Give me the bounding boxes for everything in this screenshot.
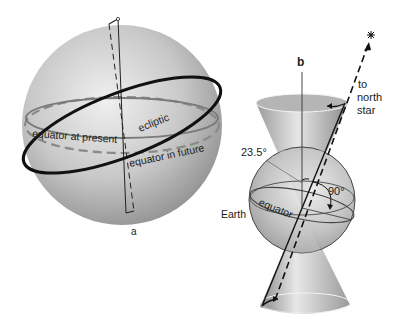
label-tilt-angle: 23.5°	[241, 146, 267, 158]
panel-label-a: a	[131, 226, 137, 237]
figure-b: b to north star 23.5° 90° Earth equator	[221, 31, 382, 314]
label-right-angle: 90°	[328, 185, 345, 197]
panel-label-b: b	[297, 55, 304, 69]
label-to: to	[358, 78, 367, 90]
label-earth: Earth	[221, 208, 246, 220]
label-north: north	[357, 91, 382, 103]
figure-a: equator at present ecliptic equator in f…	[13, 17, 232, 237]
arrowhead-north-star	[364, 42, 371, 51]
star-icon	[367, 31, 375, 39]
label-star: star	[357, 104, 376, 116]
precession-diagram: equator at present ecliptic equator in f…	[0, 0, 406, 332]
north-pole-dot	[116, 17, 119, 20]
